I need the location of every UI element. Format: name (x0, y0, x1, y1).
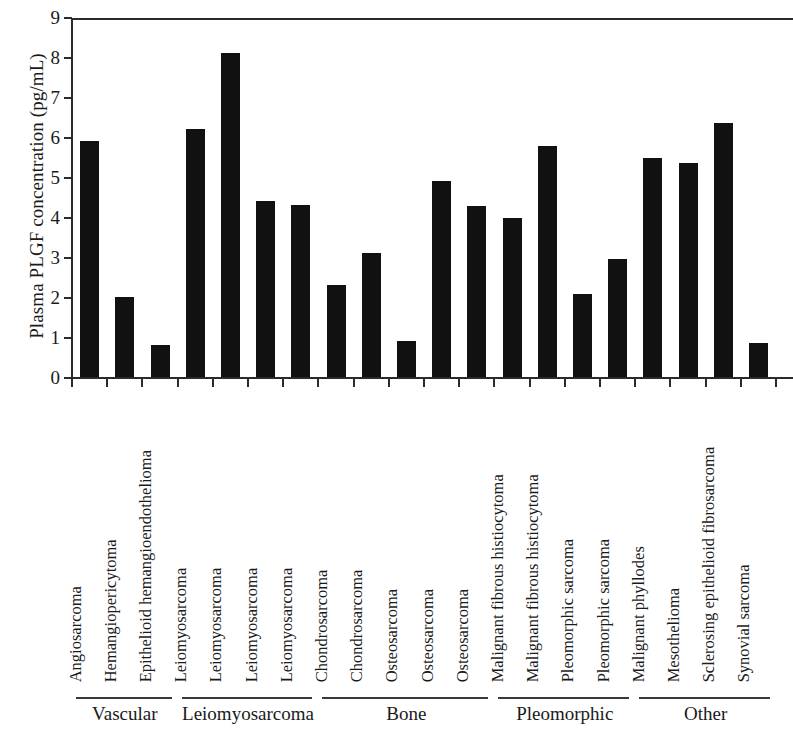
bar (291, 205, 310, 377)
bar (186, 129, 205, 377)
group-bracket-line (76, 697, 172, 699)
bar (432, 181, 451, 377)
x-axis-label: Malignant phyllodes (629, 546, 646, 682)
x-axis-label: Chondrosarcoma (313, 569, 330, 682)
x-axis-tick (775, 379, 777, 387)
x-axis-tick (705, 379, 707, 387)
bar (256, 201, 275, 377)
bar (749, 343, 768, 377)
x-axis-tick (493, 379, 495, 387)
x-axis-label: Leiomyosarcoma (277, 567, 294, 682)
group-bracket-line (639, 697, 770, 699)
x-axis-tick (388, 379, 390, 387)
bar (397, 341, 416, 377)
group-label: Other (635, 703, 776, 726)
x-axis-tick (106, 379, 108, 387)
group-bracket-line (182, 697, 313, 699)
x-axis-label: Chondrosarcoma (348, 569, 365, 682)
group-label: Vascular (72, 703, 178, 726)
x-axis-tick (529, 379, 531, 387)
bar (221, 53, 240, 377)
x-axis-label: Hemangiopericytoma (101, 539, 118, 682)
bar (80, 141, 99, 377)
x-axis-tick (282, 379, 284, 387)
bar (538, 146, 557, 377)
bar-chart-figure: Plasma PLGF concentration (pg/mL) 012345… (0, 0, 793, 733)
x-axis-label: Pleomorphic sarcoma (594, 539, 611, 682)
bar (679, 163, 698, 377)
x-axis-label: Sclerosing epithelioid fibrosarcoma (700, 446, 717, 682)
x-axis-tick (317, 379, 319, 387)
x-axis-label: Malignant fibrous histiocytoma (524, 474, 541, 682)
bar (362, 253, 381, 377)
x-axis-tick (458, 379, 460, 387)
x-axis-label: Mesothelioma (665, 588, 682, 682)
bar (467, 206, 486, 377)
bar (608, 259, 627, 377)
x-axis-label: Angiosarcoma (66, 586, 83, 682)
group-bracket-line (322, 697, 488, 699)
bar (151, 345, 170, 377)
x-axis-label: Pleomorphic sarcoma (559, 539, 576, 682)
x-axis-tick (634, 379, 636, 387)
x-axis-tick (423, 379, 425, 387)
x-axis-tick (353, 379, 355, 387)
x-axis-label: Synovial sarcoma (735, 564, 752, 682)
group-label: Bone (318, 703, 494, 726)
bar (573, 294, 592, 377)
x-axis-label: Leiomyosarcoma (242, 567, 259, 682)
bar (115, 297, 134, 377)
x-axis-tick (599, 379, 601, 387)
x-axis-label: Osteosarcoma (418, 589, 435, 682)
x-axis-line (71, 377, 793, 379)
bar (714, 123, 733, 377)
group-label: Leiomyosarcoma (178, 703, 319, 726)
x-axis-tick (71, 379, 73, 387)
bar (327, 285, 346, 377)
bar (503, 218, 522, 377)
x-axis-label: Osteosarcoma (453, 589, 470, 682)
bar (643, 158, 662, 377)
group-bracket-line (498, 697, 629, 699)
x-axis-label: Leiomyosarcoma (172, 567, 189, 682)
x-axis-tick (177, 379, 179, 387)
x-axis-tick (141, 379, 143, 387)
x-axis-label: Malignant fibrous histiocytoma (489, 474, 506, 682)
x-axis-tick (564, 379, 566, 387)
group-label: Pleomorphic (494, 703, 635, 726)
x-axis-tick (247, 379, 249, 387)
x-axis-tick (212, 379, 214, 387)
x-axis-label: Leiomyosarcoma (207, 567, 224, 682)
x-axis-label: Epithelioid hemangioendothelioma (137, 450, 154, 682)
x-axis-tick (669, 379, 671, 387)
bars-layer (0, 18, 793, 377)
x-axis-label: Osteosarcoma (383, 589, 400, 682)
x-axis-tick (740, 379, 742, 387)
